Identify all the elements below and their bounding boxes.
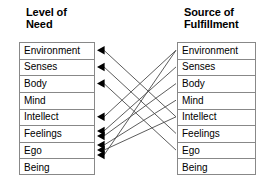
list-item[interactable]: Being [178,159,255,176]
list-item[interactable]: Environment [178,43,255,60]
level-of-need-box: Environment Senses Body Mind Intellect F… [19,42,95,175]
list-item[interactable]: Mind [178,93,255,110]
list-item[interactable]: Ego [20,143,94,160]
list-item[interactable]: Body [178,76,255,93]
list-item[interactable]: Feelings [178,126,255,143]
list-item[interactable]: Mind [20,93,94,110]
source-of-fulfillment-box: Environment Senses Body Mind Intellect F… [177,42,256,175]
left-column-title: Level of Need [26,6,67,30]
list-item[interactable]: Senses [178,60,255,77]
list-item[interactable]: Intellect [20,110,94,127]
list-item[interactable]: Feelings [20,126,94,143]
list-item[interactable]: Ego [178,143,255,160]
list-item[interactable]: Senses [20,60,94,77]
list-item[interactable]: Being [20,159,94,176]
list-item[interactable]: Body [20,76,94,93]
diagram-canvas: Level of Need Source of Fulfillment Envi… [0,0,272,185]
list-item[interactable]: Environment [20,43,94,60]
right-column-title: Source of Fulfillment [184,6,239,30]
list-item[interactable]: Intellect [178,110,255,127]
